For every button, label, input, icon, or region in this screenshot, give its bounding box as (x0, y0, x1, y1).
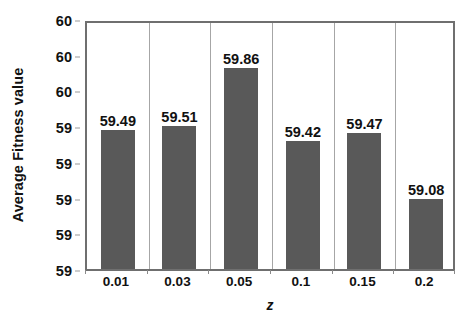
y-axis-tick-mark (75, 163, 80, 164)
bar-value-label: 59.86 (223, 51, 259, 67)
bar[interactable] (224, 68, 258, 269)
bar[interactable] (347, 133, 381, 269)
x-axis-tick-mark (208, 270, 209, 274)
bar-value-label: 59.49 (100, 113, 136, 129)
bar-value-label: 59.47 (346, 116, 382, 132)
y-axis-tick-mark (75, 21, 80, 22)
bar-slot: 59.86 (210, 23, 272, 269)
bar[interactable] (409, 199, 443, 269)
bar-slot: 59.49 (87, 23, 149, 269)
bar-chart: Average Fitness value 6060605959595959 5… (0, 0, 464, 326)
y-axis-tick-label: 59 (56, 192, 72, 208)
y-axis-tick-label: 60 (56, 49, 72, 65)
x-axis-tick-labels: 0.010.030.050.10.150.2 (85, 274, 455, 296)
x-axis-title: z (85, 297, 455, 313)
x-axis-tick-label: 0.1 (291, 274, 310, 289)
x-axis-tick-mark (454, 270, 455, 274)
x-axis-tick-mark (393, 270, 394, 274)
bar[interactable] (286, 141, 320, 269)
bar-value-label: 59.51 (161, 109, 197, 125)
bar-slot: 59.51 (149, 23, 211, 269)
bar-slot: 59.08 (395, 23, 457, 269)
bar[interactable] (162, 126, 196, 269)
y-axis-tick-labels: 6060605959595959 (36, 21, 80, 271)
bar[interactable] (101, 130, 135, 269)
x-axis-tick-mark (332, 270, 333, 274)
y-axis-tick-label: 59 (56, 263, 72, 279)
y-axis-title-text: Average Fitness value (10, 68, 26, 223)
bar-slot: 59.42 (272, 23, 334, 269)
y-axis-tick-mark (75, 128, 80, 129)
y-axis-tick-mark (75, 199, 80, 200)
bars-layer: 59.4959.5159.8659.4259.4759.08 (87, 23, 453, 269)
y-axis-tick-mark (75, 271, 80, 272)
y-axis-tick-label: 60 (56, 13, 72, 29)
x-axis-tick-mark (270, 270, 271, 274)
x-axis-tick-label: 0.2 (415, 274, 434, 289)
y-axis-tick-label: 59 (56, 120, 72, 136)
y-axis-title: Average Fitness value (0, 0, 36, 290)
x-axis-tick-label: 0.05 (226, 274, 252, 289)
y-axis-tick-label: 60 (56, 84, 72, 100)
x-axis-tick-label: 0.01 (103, 274, 129, 289)
y-axis-tick-label: 59 (56, 227, 72, 243)
x-axis-tick-mark (147, 270, 148, 274)
y-axis-tick-mark (75, 92, 80, 93)
bar-value-label: 59.42 (285, 124, 321, 140)
x-axis-tick-mark (85, 270, 86, 274)
bar-value-label: 59.08 (408, 182, 444, 198)
y-axis-tick-mark (75, 235, 80, 236)
x-axis-tick-label: 0.15 (349, 274, 375, 289)
y-axis-tick-label: 59 (56, 156, 72, 172)
x-axis-tick-label: 0.03 (164, 274, 190, 289)
bar-slot: 59.47 (334, 23, 396, 269)
y-axis-tick-mark (75, 56, 80, 57)
plot-area: 59.4959.5159.8659.4259.4759.08 (85, 21, 455, 271)
